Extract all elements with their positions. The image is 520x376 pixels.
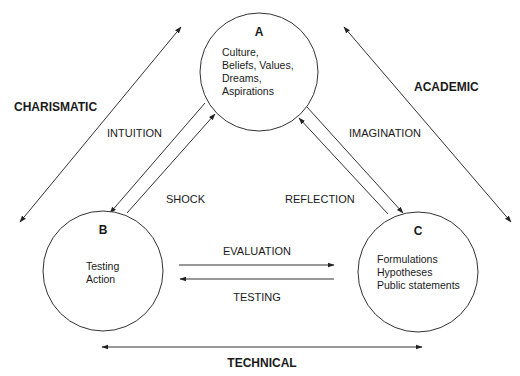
node-c-line-1: Formulations	[377, 253, 438, 265]
charismatic-axis-arrow	[20, 27, 181, 222]
node-a-line-3: Dreams,	[222, 72, 262, 84]
leadership-triangle-diagram: A Culture, Beliefs, Values, Dreams, Aspi…	[0, 0, 520, 376]
node-c-letter: C	[414, 224, 423, 238]
node-b-line-1: Testing	[86, 260, 119, 272]
technical-label: TECHNICAL	[227, 356, 296, 370]
node-b-letter: B	[99, 223, 108, 237]
imagination-label: IMAGINATION	[349, 127, 421, 139]
reflection-label: REFLECTION	[285, 193, 355, 205]
evaluation-label: EVALUATION	[223, 245, 291, 257]
academic-label: ACADEMIC	[414, 80, 479, 94]
node-b-line-2: Action	[86, 273, 115, 285]
node-c-line-3: Public statements	[377, 279, 460, 291]
node-a-line-4: Aspirations	[222, 85, 274, 97]
intuition-label: INTUITION	[107, 127, 162, 139]
testing-label: TESTING	[233, 291, 281, 303]
node-a-letter: A	[255, 25, 264, 39]
node-a-line-1: Culture,	[222, 46, 259, 58]
charismatic-label: CHARISMATIC	[14, 100, 97, 114]
academic-axis-arrow	[344, 27, 511, 222]
node-c-line-2: Hypotheses	[377, 266, 432, 278]
shock-label: SHOCK	[166, 193, 206, 205]
node-a-line-2: Beliefs, Values,	[222, 59, 294, 71]
